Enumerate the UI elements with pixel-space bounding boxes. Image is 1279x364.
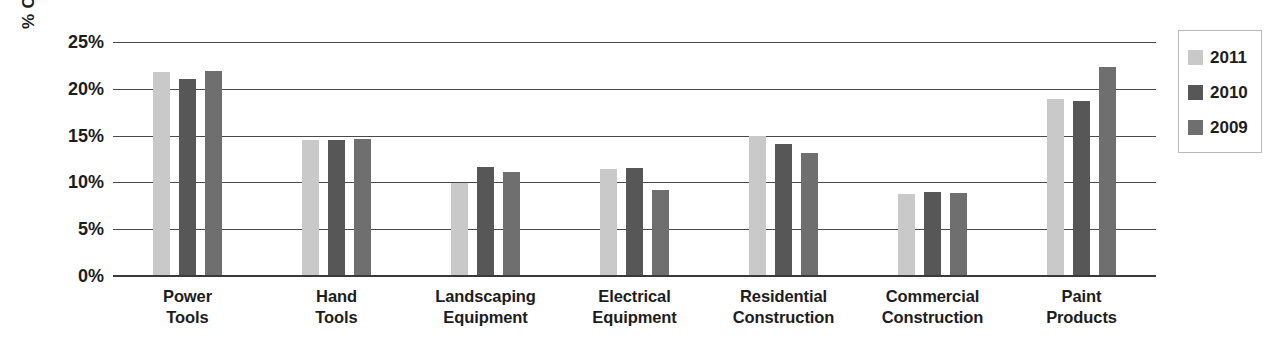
y-tick-label: 0% — [50, 267, 104, 285]
bar — [898, 194, 915, 276]
x-category-label: CommercialConstruction — [858, 286, 1007, 328]
x-category-label-line: Tools — [113, 307, 262, 328]
plot-area — [113, 42, 1156, 276]
x-category-label-line: Construction — [709, 307, 858, 328]
bar — [503, 172, 520, 276]
bar — [749, 136, 766, 276]
bar-group — [858, 42, 1007, 276]
bar-group — [262, 42, 411, 276]
y-axis-title: % OF NET SALES — [14, 0, 44, 72]
bar — [477, 167, 494, 277]
bar — [179, 79, 196, 276]
bar — [1099, 67, 1116, 276]
bar — [451, 183, 468, 276]
bar — [600, 169, 617, 276]
bar-group — [1007, 42, 1156, 276]
x-category-label-line: Residential — [709, 286, 858, 307]
x-category-label-line: Products — [1007, 307, 1156, 328]
x-category-label: PowerTools — [113, 286, 262, 328]
bars-layer — [113, 42, 1156, 276]
bar — [1073, 101, 1090, 276]
bar-group — [709, 42, 858, 276]
y-tick-label: 15% — [50, 127, 104, 145]
x-category-label: PaintProducts — [1007, 286, 1156, 328]
legend-color-swatch — [1188, 120, 1203, 135]
bar-chart: % OF NET SALES 25%20%15%10%5%0% PowerToo… — [0, 0, 1279, 364]
x-category-label-line: Tools — [262, 307, 411, 328]
x-category-label-line: Commercial — [858, 286, 1007, 307]
bar-group — [560, 42, 709, 276]
bar — [626, 168, 643, 276]
legend-item: 2011 — [1188, 40, 1261, 75]
legend-item-label: 2011 — [1210, 49, 1247, 66]
bar — [924, 192, 941, 276]
x-axis-category-labels: PowerToolsHandToolsLandscapingEquipmentE… — [113, 286, 1156, 356]
bar — [775, 144, 792, 276]
x-category-label: HandTools — [262, 286, 411, 328]
y-tick-label: 25% — [50, 33, 104, 51]
x-category-label-line: Hand — [262, 286, 411, 307]
legend-item: 2009 — [1188, 110, 1261, 145]
legend-item-label: 2009 — [1210, 119, 1248, 136]
chart-legend: 201120102009 — [1178, 30, 1262, 153]
x-axis-line — [113, 275, 1156, 277]
x-category-label: ResidentialConstruction — [709, 286, 858, 328]
x-category-label-line: Equipment — [560, 307, 709, 328]
x-category-label-line: Power — [113, 286, 262, 307]
bar — [801, 153, 818, 276]
bar — [302, 140, 319, 276]
bar — [1047, 99, 1064, 276]
bar — [950, 193, 967, 276]
legend-color-swatch — [1188, 85, 1203, 100]
bar-group — [113, 42, 262, 276]
y-tick-label: 10% — [50, 173, 104, 191]
x-category-label-line: Construction — [858, 307, 1007, 328]
x-category-label-line: Landscaping — [411, 286, 560, 307]
y-tick-label: 5% — [50, 220, 104, 238]
legend-item: 2010 — [1188, 75, 1261, 110]
x-category-label: LandscapingEquipment — [411, 286, 560, 328]
x-category-label-line: Electrical — [560, 286, 709, 307]
legend-item-label: 2010 — [1210, 84, 1248, 101]
x-category-label-line: Paint — [1007, 286, 1156, 307]
x-category-label: ElectricalEquipment — [560, 286, 709, 328]
x-category-label-line: Equipment — [411, 307, 560, 328]
bar — [328, 140, 345, 276]
bar — [652, 190, 669, 276]
bar — [205, 71, 222, 276]
y-tick-label: 20% — [50, 80, 104, 98]
bar — [153, 72, 170, 276]
y-axis-tick-labels: 25%20%15%10%5%0% — [50, 0, 104, 364]
legend-color-swatch — [1188, 50, 1203, 65]
bar-group — [411, 42, 560, 276]
bar — [354, 139, 371, 276]
